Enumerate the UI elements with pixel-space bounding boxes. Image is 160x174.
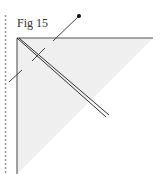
origami-diagram xyxy=(0,0,160,174)
pointer-line xyxy=(53,16,79,41)
pointer-dot xyxy=(77,14,81,18)
paper-triangle xyxy=(17,38,153,174)
